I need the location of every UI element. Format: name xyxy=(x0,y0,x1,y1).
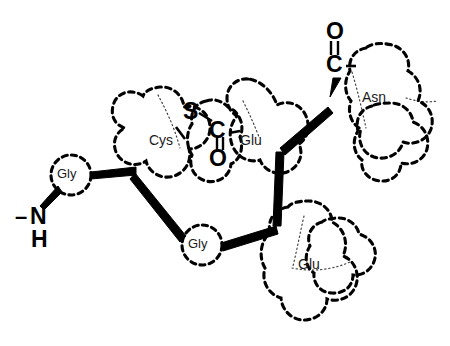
bond-wedge-asn-carbonyl xyxy=(330,78,341,97)
backbone-bond-junction-vertical xyxy=(273,152,284,226)
residue-label-gly-2: Gly xyxy=(188,237,208,250)
n-terminus-dash-label: – xyxy=(15,206,27,228)
backbone-bond-gly2-to-junction xyxy=(221,226,278,251)
cys-carbonyl-carbon-label: C xyxy=(209,119,226,142)
residue-label-asn: Asn xyxy=(362,90,386,104)
residue-partition-asn-2 xyxy=(406,98,437,102)
asn-carbonyl-carbon-label: C xyxy=(326,53,343,76)
n-terminus-nitrogen-label: N xyxy=(30,205,47,228)
residue-label-cys: Cys xyxy=(149,133,173,147)
residue-label-gly-1: Gly xyxy=(57,167,77,180)
n-terminus-hydrogen-label: H xyxy=(31,228,48,251)
backbone-bond-cys-to-gly2 xyxy=(130,173,186,242)
residue-outline-glu-upper xyxy=(227,79,308,173)
residue-label-glu-lower: Glu xyxy=(298,257,320,271)
bond-cys-sidechain-stub xyxy=(176,127,185,139)
asn-carbonyl-oxygen-label: O xyxy=(326,20,344,43)
backbone-bond-gly1-to-cys xyxy=(91,167,136,179)
cys-sulfur-label: S xyxy=(183,100,198,123)
cys-carbonyl-oxygen-label: O xyxy=(209,147,227,170)
residue-label-glu-upper: Glu xyxy=(240,133,262,147)
diagram-canvas: – N H S C O O C Gly Cys Glu Asn Gly Glu xyxy=(0,0,450,346)
